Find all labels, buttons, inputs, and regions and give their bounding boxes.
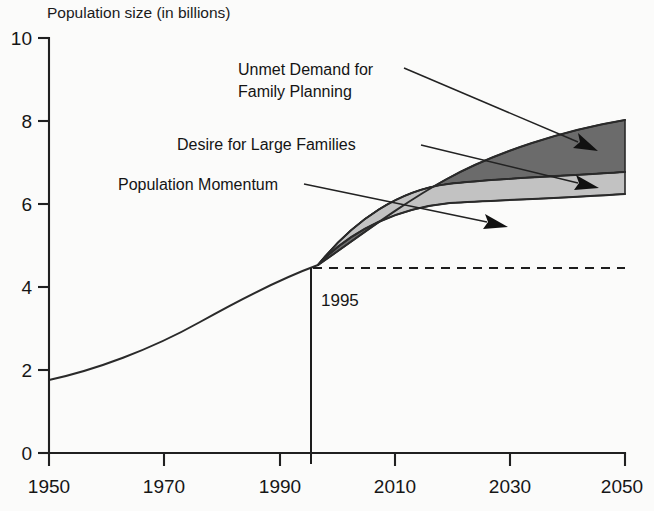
y-tick-label-10: 10	[11, 28, 32, 49]
chart-title: Population size (in billions)	[47, 4, 231, 21]
x-tick-label-2030: 2030	[489, 476, 531, 497]
annotation-population-momentum: Population Momentum	[118, 176, 278, 193]
population-projection-chart: 10 8 6 4 2 0 1950 1970 1990 2010 2030 20…	[0, 0, 654, 511]
y-tick-label-2: 2	[21, 360, 32, 381]
leader-line-unmet-demand	[404, 68, 578, 142]
annotation-desire-large-families: Desire for Large Families	[177, 136, 356, 153]
y-tick-label-0: 0	[21, 443, 32, 464]
y-tick-label-6: 6	[21, 194, 32, 215]
chart-figure: 10 8 6 4 2 0 1950 1970 1990 2010 2030 20…	[0, 0, 654, 511]
reference-label-1995: 1995	[321, 291, 359, 310]
line-population-momentum-boundary	[318, 194, 625, 265]
annotation-unmet-demand-line1: Unmet Demand for	[238, 61, 374, 78]
x-tick-label-1970: 1970	[143, 476, 185, 497]
x-tick-label-2050: 2050	[601, 476, 643, 497]
x-tick-label-1990: 1990	[259, 476, 301, 497]
y-tick-label-8: 8	[21, 111, 32, 132]
x-tick-label-1950: 1950	[28, 476, 70, 497]
x-tick-label-2010: 2010	[374, 476, 416, 497]
annotation-unmet-demand-line2: Family Planning	[238, 83, 352, 100]
y-tick-label-4: 4	[21, 277, 32, 298]
